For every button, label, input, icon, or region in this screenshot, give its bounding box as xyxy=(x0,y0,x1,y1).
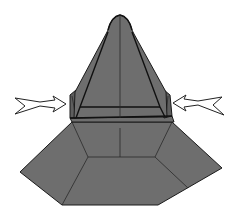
left-arrow-icon xyxy=(15,96,66,114)
right-arrow-icon xyxy=(173,95,224,115)
skirt-outer xyxy=(20,122,222,205)
pyramid xyxy=(74,15,167,118)
origami-diagram xyxy=(0,0,237,218)
